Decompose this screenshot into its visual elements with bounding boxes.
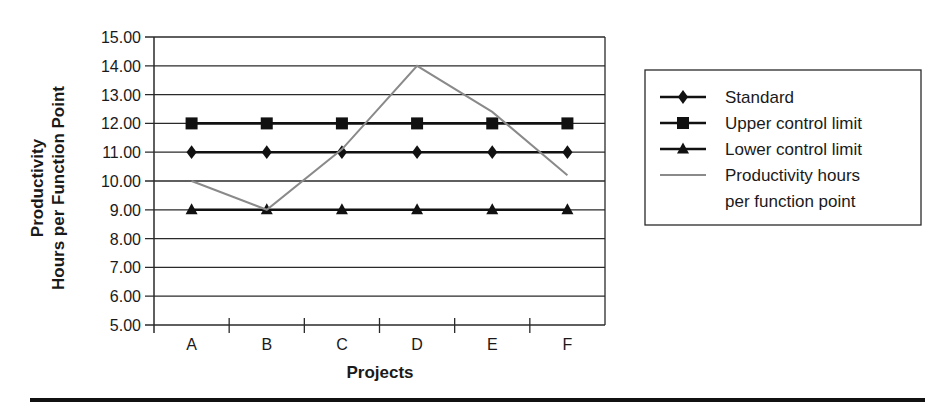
x-tick-label: E	[487, 336, 498, 353]
legend-label: Lower control limit	[725, 140, 862, 159]
y-tick-label: 11.00	[102, 144, 141, 161]
y-tick-label: 5.00	[110, 317, 141, 334]
x-axis-title: Projects	[346, 363, 413, 382]
svg-text:Hours per Function Point: Hours per Function Point	[49, 86, 68, 290]
series-upper-control-limit	[186, 117, 574, 129]
y-tick-label: 9.00	[110, 202, 141, 219]
legend-label: per function point	[725, 192, 856, 211]
y-tick-label: 7.00	[110, 259, 141, 276]
y-tick-label: 13.00	[101, 87, 141, 104]
x-tick-label: C	[336, 336, 348, 353]
x-axis-ticks: ABCDEF	[186, 318, 572, 353]
gridlines	[145, 37, 605, 325]
x-tick-label: D	[411, 336, 423, 353]
x-tick-label: B	[261, 336, 272, 353]
y-tick-label: 14.00	[101, 58, 141, 75]
y-tick-label: 12.00	[101, 115, 141, 132]
legend-label: Standard	[725, 88, 794, 107]
legend-label: Upper control limit	[725, 114, 862, 133]
x-tick-label: F	[563, 336, 573, 353]
y-tick-label: 8.00	[110, 231, 141, 248]
y-axis-ticks: 5.006.007.008.009.0010.0011.0012.0013.00…	[101, 29, 141, 334]
series-lower-control-limit	[186, 203, 574, 214]
bottom-rule	[30, 398, 925, 402]
y-tick-label: 6.00	[110, 288, 141, 305]
series-standard	[186, 145, 572, 159]
legend: StandardUpper control limitLower control…	[645, 70, 921, 225]
data-series	[186, 66, 574, 215]
y-tick-label: 10.00	[101, 173, 141, 190]
svg-text:Productivity: Productivity	[28, 138, 47, 237]
control-chart: ProductivityHours per Function Point 5.0…	[0, 0, 943, 408]
plot-area-frame	[154, 37, 605, 333]
series-productivity-hours-per-function-point	[192, 66, 568, 210]
legend-label: Productivity hours	[725, 166, 860, 185]
x-tick-label: A	[186, 336, 197, 353]
y-tick-label: 15.00	[101, 29, 141, 46]
y-axis-title: ProductivityHours per Function Point	[28, 86, 68, 290]
